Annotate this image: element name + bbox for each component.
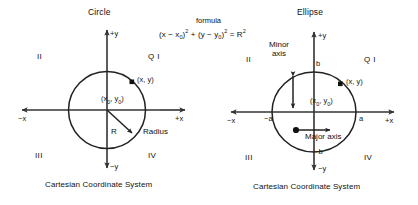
circle-radius-symbol: R (111, 128, 117, 136)
ellipse-panel-caption: Cartesian Coordinate System (253, 183, 360, 191)
formula-equation: (x − x0)2 + (y − y0)2 = R2 (159, 29, 246, 41)
ellipse-axis-label-positive-x: +x (385, 117, 393, 125)
major-axis-label: Major axis (305, 133, 341, 141)
circle-panel-title: Circle (88, 8, 111, 17)
ellipse-center-label: (x0, y0) (310, 97, 333, 107)
ellipse-panel-title: Ellipse (297, 8, 323, 17)
circle-quadrant-1-label: Q I (148, 53, 160, 61)
figure-canvas: Circle II Q I III IV +y −y +x −x (x, y) … (0, 0, 418, 205)
ellipse-tick-b: b (316, 60, 320, 68)
circle-axis-label-positive-y: +y (110, 30, 118, 38)
circle-axis-label-positive-x: +x (175, 115, 183, 123)
ellipse-tick-negative-b: −b (314, 148, 323, 156)
circle-point-marker (130, 80, 135, 85)
ellipse-axis-label-negative-y: −y (318, 165, 326, 173)
ellipse-axis-label-positive-y: +y (318, 32, 326, 40)
ellipse-tick-negative-a: −a (264, 115, 273, 123)
formula-label: formula (196, 17, 221, 25)
circle-quadrant-4-label: IV (148, 152, 156, 160)
circle-axis-label-negative-y: −y (110, 163, 118, 171)
minor-axis-label: Minoraxis (262, 40, 296, 58)
ellipse-quadrant-1-label: Q I (364, 56, 376, 64)
ellipse-quadrant-3-label: III (245, 154, 253, 162)
major-axis-origin-dot (293, 127, 299, 133)
circle-point-label: (x, y) (137, 76, 154, 84)
ellipse-quadrant-2-label: II (246, 56, 251, 64)
circle-quadrant-3-label: III (35, 152, 43, 160)
ellipse-tick-a: a (359, 115, 363, 123)
ellipse-axis-label-negative-x: −x (227, 117, 235, 125)
circle-center-label: (x0, y0) (101, 95, 124, 105)
ellipse-point-marker (338, 82, 343, 87)
circle-radius-word: Radius (143, 128, 168, 136)
circle-axis-label-negative-x: −x (18, 115, 26, 123)
circle-quadrant-2-label: II (37, 53, 42, 61)
ellipse-point-label: (x, y) (346, 78, 363, 86)
ellipse-quadrant-4-label: IV (364, 154, 372, 162)
circle-panel-caption: Cartesian Coordinate System (45, 181, 152, 189)
